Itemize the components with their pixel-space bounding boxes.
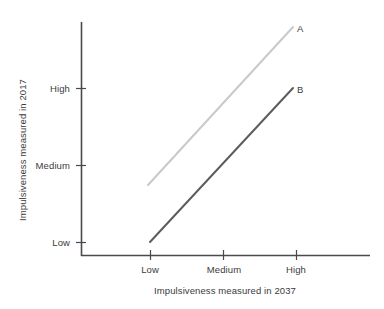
series-line-a [148, 27, 293, 185]
x-axis-title: Impulsiveness measured in 2037 [154, 285, 296, 296]
y-tick-label-high: High [26, 83, 70, 94]
y-axis-title: Impulsiveness measured in 2017 [17, 79, 28, 221]
series-label-b: B [297, 84, 303, 95]
x-tick-label-low: Low [141, 264, 159, 275]
series-label-a: A [297, 23, 303, 34]
chart-plot-area [0, 0, 384, 309]
series-line-b [150, 88, 293, 242]
chart-container: High Medium Low Low Medium High Impulsiv… [0, 0, 384, 309]
x-tick-label-medium: Medium [207, 264, 241, 275]
x-tick-label-high: High [286, 264, 306, 275]
y-tick-label-low: Low [26, 237, 70, 248]
